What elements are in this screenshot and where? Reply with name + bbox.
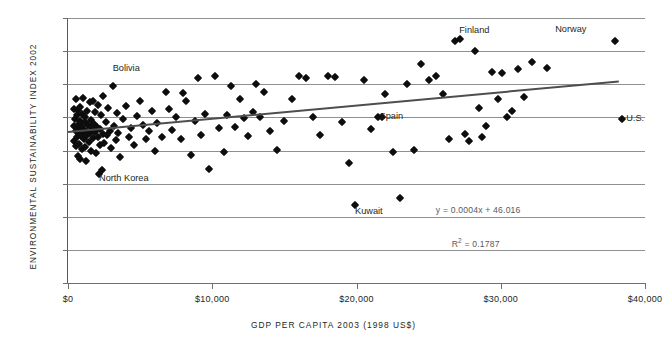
data-point	[266, 126, 274, 134]
data-point	[116, 153, 124, 161]
r-squared-label: R2 = 0.1787	[452, 237, 500, 249]
data-point	[338, 118, 346, 126]
data-point	[244, 132, 252, 140]
data-point	[432, 71, 440, 79]
data-point	[471, 47, 479, 55]
data-point	[162, 87, 170, 95]
data-point	[359, 76, 367, 84]
gridline-y-80	[68, 18, 645, 19]
data-point	[220, 148, 228, 156]
data-point	[494, 95, 502, 103]
data-point	[111, 136, 119, 144]
y-axis-title: ENVIRONMENTAL SUSTAINABILITY INDEX 2002	[29, 32, 38, 282]
data-point	[403, 80, 411, 88]
data-point	[205, 165, 213, 173]
gridline-y-30	[68, 184, 645, 185]
data-point	[104, 104, 112, 112]
data-point	[147, 107, 155, 115]
gridline-y-70	[68, 51, 645, 52]
data-point	[108, 81, 116, 89]
data-point	[396, 193, 404, 201]
data-point	[150, 146, 158, 154]
data-point	[176, 134, 184, 142]
y-tick-10	[63, 250, 68, 251]
data-point	[456, 34, 464, 42]
data-point	[121, 102, 129, 110]
gridline-y-50	[68, 117, 645, 118]
x-tick-10000	[212, 283, 213, 289]
data-point	[618, 114, 626, 122]
data-point	[498, 69, 506, 77]
data-point	[211, 71, 219, 79]
y-tick-80	[63, 18, 68, 19]
data-point	[186, 151, 194, 159]
data-point	[610, 36, 618, 44]
x-tick-label-40000: $40,000	[600, 294, 667, 304]
data-point	[331, 73, 339, 81]
data-point	[182, 97, 190, 105]
x-tick-label-10000: $10,000	[167, 294, 257, 304]
data-point	[367, 124, 375, 132]
annotation-norway: Norway	[555, 24, 586, 34]
y-tick-20	[63, 217, 68, 218]
x-tick-20000	[357, 283, 358, 289]
data-point	[196, 131, 204, 139]
data-point	[417, 60, 425, 68]
x-tick-0	[68, 283, 69, 289]
scatter-chart: ENVIRONMENTAL SUSTAINABILITY INDEX 2002 …	[0, 0, 667, 345]
data-point	[260, 88, 268, 96]
data-point	[231, 122, 239, 130]
data-point	[445, 134, 453, 142]
data-point	[502, 113, 510, 121]
y-tick-50	[63, 117, 68, 118]
data-point	[215, 124, 223, 132]
data-point	[475, 104, 483, 112]
trendline-equation: y = 0.0004x + 46.016	[436, 205, 521, 215]
x-tick-label-30000: $30,000	[456, 294, 546, 304]
data-point	[381, 89, 389, 97]
annotation-spain: Spain	[380, 111, 404, 121]
data-point	[482, 122, 490, 130]
y-tick-60	[63, 84, 68, 85]
data-point	[114, 128, 122, 136]
data-point	[543, 63, 551, 71]
data-point	[194, 73, 202, 81]
data-point	[82, 157, 90, 165]
gridline-y-10	[68, 250, 645, 251]
data-point	[101, 118, 109, 126]
data-point	[345, 159, 353, 167]
data-point	[520, 93, 528, 101]
data-point	[133, 112, 141, 120]
annotation-finland: Finland	[459, 25, 489, 35]
x-axis-title: GDP PER CAPITA 2003 (1998 US$)	[0, 320, 667, 330]
x-tick-40000	[645, 283, 646, 289]
x-tick-30000	[501, 283, 502, 289]
plot-area: 01020304050607080$0$10,000$20,000$30,000…	[68, 18, 645, 283]
data-point	[235, 95, 243, 103]
data-point	[316, 130, 324, 138]
data-point	[528, 58, 536, 66]
x-tick-label-0: $0	[23, 294, 113, 304]
y-tick-70	[63, 51, 68, 52]
data-point	[158, 133, 166, 141]
annotation-bolivia: Bolivia	[113, 63, 140, 73]
data-point	[136, 97, 144, 105]
data-point	[119, 115, 127, 123]
data-point	[287, 95, 295, 103]
data-point	[227, 82, 235, 90]
data-point	[251, 80, 259, 88]
data-point	[465, 137, 473, 145]
data-point	[165, 105, 173, 113]
annotation-u-s: U.S.	[626, 113, 644, 123]
y-tick-40	[63, 151, 68, 152]
data-point	[99, 92, 107, 100]
data-point	[124, 133, 132, 141]
annotation-kuwait: Kuwait	[355, 206, 383, 216]
data-point	[302, 73, 310, 81]
data-point	[273, 146, 281, 154]
data-point	[478, 132, 486, 140]
data-point	[410, 146, 418, 154]
data-point	[168, 126, 176, 134]
data-point	[388, 148, 396, 156]
y-tick-30	[63, 184, 68, 185]
